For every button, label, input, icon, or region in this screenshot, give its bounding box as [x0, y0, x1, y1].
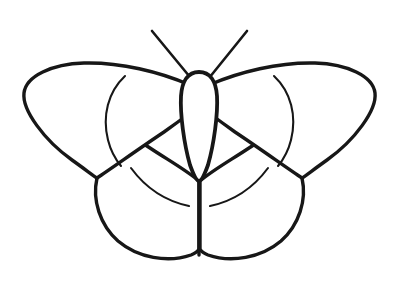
butterfly-illustration	[0, 0, 397, 289]
illustration-canvas	[0, 0, 397, 289]
